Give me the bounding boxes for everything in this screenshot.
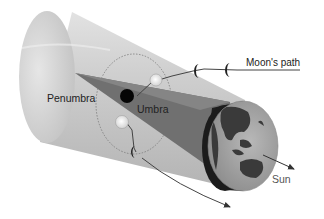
sun-label: Sun — [272, 174, 291, 185]
lunar-eclipse-diagram: Penumbra Umbra Moon's path Sun — [0, 0, 324, 219]
moons-path-label: Moon's path — [246, 58, 300, 68]
umbra-label: Umbra — [137, 104, 169, 115]
earth-globe — [208, 101, 278, 191]
moon-lit-lower — [116, 116, 129, 129]
moon-eclipsed — [120, 89, 134, 103]
moon-lit-upper — [150, 74, 162, 86]
penumbra-label: Penumbra — [47, 93, 95, 104]
